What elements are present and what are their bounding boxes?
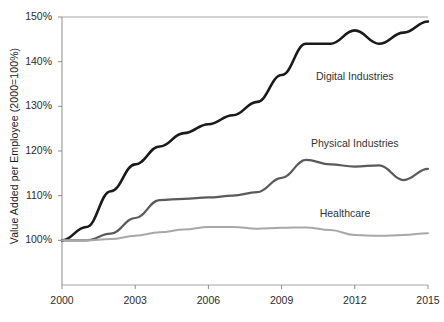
x-tick-label: 2012 xyxy=(332,294,378,306)
series-line-healthcare xyxy=(62,227,428,240)
series-label-digital-industries: Digital Industries xyxy=(316,70,394,82)
series-label-healthcare: Healthcare xyxy=(320,207,371,219)
series-line-digital-industries xyxy=(62,21,428,240)
x-tick-label: 2009 xyxy=(259,294,305,306)
plot-frame xyxy=(62,17,428,285)
y-tick-label: 120% xyxy=(14,144,52,156)
x-tick-label: 2003 xyxy=(112,294,158,306)
x-tick-label: 2000 xyxy=(39,294,85,306)
y-tick-label: 130% xyxy=(14,99,52,111)
y-tick-label: 140% xyxy=(14,55,52,67)
x-tick-label: 2015 xyxy=(405,294,444,306)
x-axis-ticks xyxy=(62,285,428,289)
y-axis-ticks xyxy=(58,17,62,240)
y-tick-label: 100% xyxy=(14,233,52,245)
y-tick-label: 110% xyxy=(14,189,52,201)
series-label-physical-industries: Physical Industries xyxy=(311,137,399,149)
x-tick-label: 2006 xyxy=(185,294,231,306)
y-tick-label: 150% xyxy=(14,10,52,22)
series-lines xyxy=(62,21,428,240)
